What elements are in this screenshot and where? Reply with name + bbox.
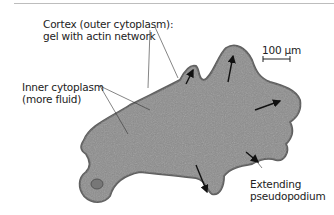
cortex-label: Cortex (outer cytoplasm): gel with actin…: [43, 18, 173, 42]
cortex-label-line1: Cortex (outer cytoplasm):: [43, 18, 173, 30]
contractile-vacuole: [91, 179, 103, 189]
pseudo-label-line1: Extending: [250, 178, 326, 190]
cortex-label-line2: gel with actin network: [43, 30, 173, 42]
inner-label-line1: Inner cytoplasm: [22, 81, 104, 93]
pseudo-label-line2: pseudopodium: [250, 190, 326, 202]
inner-cytoplasm-label: Inner cytoplasm (more fluid): [22, 81, 104, 105]
inner-label-line2: (more fluid): [22, 93, 104, 105]
scale-label: 100 µm: [262, 44, 301, 56]
pseudopodium-label: Extending pseudopodium: [250, 178, 326, 202]
